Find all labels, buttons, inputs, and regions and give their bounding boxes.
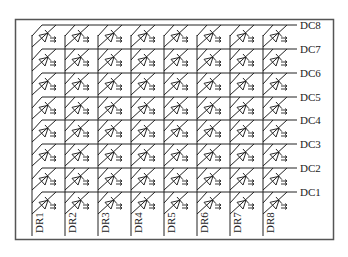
light-emission-icon <box>182 61 188 67</box>
led-lead <box>164 97 188 119</box>
light-emission-icon <box>50 37 56 43</box>
led-cell <box>197 120 221 142</box>
light-emission-icon <box>50 109 56 115</box>
led-lead <box>164 120 188 142</box>
light-emission-icon <box>281 37 287 43</box>
led-lead <box>197 120 221 142</box>
led-cell <box>263 97 287 119</box>
led-cell <box>98 25 122 47</box>
light-emission-icon <box>182 132 188 138</box>
led-lead <box>164 144 188 166</box>
led-cell <box>32 144 56 166</box>
led-lead <box>131 49 155 71</box>
led-cell <box>32 168 56 190</box>
led-lead <box>197 73 221 95</box>
light-emission-icon <box>149 85 155 91</box>
light-emission-icon <box>149 109 155 115</box>
led-cell <box>164 49 188 71</box>
led-cell <box>263 25 287 47</box>
led-lead <box>98 120 122 142</box>
led-cell <box>263 168 287 190</box>
light-emission-icon <box>281 204 287 210</box>
led-cell <box>98 144 122 166</box>
led-lead <box>263 49 287 71</box>
light-emission-icon <box>215 61 221 67</box>
column-label: DR3 <box>99 212 111 233</box>
led-lead <box>230 144 254 166</box>
light-emission-icon <box>281 61 287 67</box>
light-emission-icon <box>215 132 221 138</box>
light-emission-icon <box>50 132 56 138</box>
light-emission-icon <box>83 109 89 115</box>
light-emission-icon <box>215 180 221 186</box>
light-emission-icon <box>248 204 254 210</box>
led-cell <box>263 144 287 166</box>
led-cell <box>263 73 287 95</box>
led-cell <box>65 144 89 166</box>
light-emission-icon <box>182 180 188 186</box>
led-lead <box>263 120 287 142</box>
column-label: DR8 <box>264 212 276 233</box>
led-lead <box>164 49 188 71</box>
led-lead <box>230 192 254 214</box>
led-lead <box>32 49 56 71</box>
light-emission-icon <box>182 37 188 43</box>
light-emission-icon <box>116 109 122 115</box>
light-emission-icon <box>116 204 122 210</box>
led-lead <box>263 168 287 190</box>
light-emission-icon <box>248 85 254 91</box>
led-lead <box>230 49 254 71</box>
column-labels: DR1DR2DR3DR4DR5DR6DR7DR8 <box>33 212 276 233</box>
light-emission-icon <box>182 109 188 115</box>
led-lead <box>98 73 122 95</box>
led-lead <box>32 192 56 214</box>
light-emission-icon <box>248 180 254 186</box>
row-label: DC8 <box>300 19 321 31</box>
light-emission-icon <box>248 109 254 115</box>
led-lead <box>131 73 155 95</box>
led-cell <box>197 97 221 119</box>
led-lead <box>197 168 221 190</box>
led-cell <box>131 144 155 166</box>
led-lead <box>263 192 287 214</box>
row-label: DC4 <box>300 114 321 126</box>
led-cell <box>131 25 155 47</box>
led-lead <box>32 120 56 142</box>
led-cell <box>98 120 122 142</box>
led-lead <box>263 25 287 47</box>
led-cell <box>131 97 155 119</box>
led-lead <box>131 168 155 190</box>
led-lead <box>65 49 89 71</box>
column-label: DR1 <box>33 212 45 233</box>
row-label: DC2 <box>300 162 321 174</box>
light-emission-icon <box>215 37 221 43</box>
led-cell <box>131 120 155 142</box>
column-label: DR5 <box>165 212 177 233</box>
light-emission-icon <box>50 180 56 186</box>
led-lead <box>197 144 221 166</box>
led-lead <box>263 144 287 166</box>
led-lead <box>65 25 89 47</box>
light-emission-icon <box>281 132 287 138</box>
led-cell <box>230 25 254 47</box>
light-emission-icon <box>83 180 89 186</box>
led-cell <box>131 49 155 71</box>
led-cell <box>32 49 56 71</box>
led-cell <box>32 192 56 214</box>
led-cell <box>164 120 188 142</box>
led-cell <box>164 97 188 119</box>
led-lead <box>131 97 155 119</box>
led-cell <box>197 73 221 95</box>
led-cell <box>65 25 89 47</box>
row-label: DC6 <box>300 67 321 79</box>
led-lead <box>197 49 221 71</box>
light-emission-icon <box>116 180 122 186</box>
led-lead <box>32 97 56 119</box>
led-cell <box>197 25 221 47</box>
led-cell <box>98 168 122 190</box>
led-cell <box>230 144 254 166</box>
led-lead <box>263 97 287 119</box>
light-emission-icon <box>149 180 155 186</box>
led-cell <box>98 192 122 214</box>
led-lead <box>98 97 122 119</box>
